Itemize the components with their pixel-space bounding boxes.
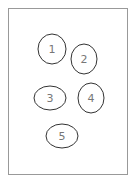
ellipse-label: 3 [47,92,54,105]
ellipse-node-2: 2 [71,44,97,74]
page-frame [9,9,128,175]
ellipse-label: 1 [49,43,56,56]
ellipse-label: 4 [88,92,95,105]
ellipse-node-1: 1 [38,34,66,64]
ellipse-label: 5 [59,130,66,143]
ellipse-node-4: 4 [78,83,104,113]
ellipse-node-3: 3 [34,86,66,110]
diagram-canvas: 12345 [0,0,134,183]
ellipse-label: 2 [81,53,88,66]
ellipse-node-5: 5 [46,124,78,148]
